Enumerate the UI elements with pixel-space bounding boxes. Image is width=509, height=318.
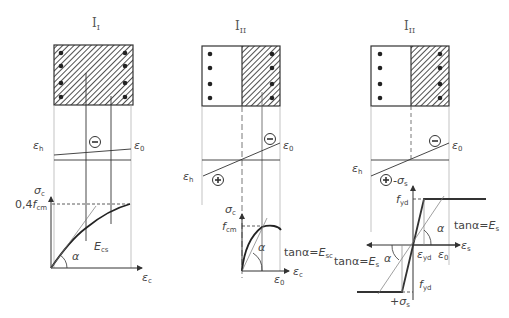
x-axis-label: εc [142,271,152,285]
panel-title: III [404,19,415,35]
angle-label: α [72,250,80,263]
y-axis-label: σc [225,203,236,217]
level-label: fcm [222,220,237,234]
panel-stage-1: II εh ε0 α Ecs σc 0,4fcm εc [15,16,152,285]
panel-stage-2-concrete: III ε0 εh α σc fcm [183,19,333,287]
y-axis-label: σc [34,184,45,198]
tension-sign-icon [213,175,224,186]
strain-label-h: εh [33,139,43,153]
tan-label-upper: tanα=Es [454,219,499,233]
compression-sign-icon [90,137,101,148]
x-mark-label: ε0 [274,273,284,287]
strain-0-label: ε0 [438,248,448,262]
level-label: 0,4fcm [15,198,47,212]
angle-label: α [258,241,266,254]
modulus-label: Ecs [94,240,109,254]
tension-stress-label: -σs [393,174,408,188]
strain-label-h: εh [183,170,193,184]
panel-title: II [92,16,100,32]
strain-label-0: ε0 [452,139,462,153]
cross-section-hatched [54,45,133,105]
compression-sign-icon [430,136,441,147]
strain-line [54,149,131,155]
yield-stress-top: fyd [396,193,408,207]
x-axis-label: εc [293,265,303,279]
yield-stress-bottom: fyd [419,278,431,292]
bottom-stress-label: +σs [390,295,410,309]
angle-label-lower: α [384,252,392,265]
compression-sign-icon [265,134,276,145]
structural-diagram: II εh ε0 α Ecs σc 0,4fcm εc [0,0,509,318]
strain-label-0: ε0 [134,139,144,153]
panel-title: III [235,19,246,35]
strain-line [203,143,280,176]
yield-strain-label: εyd [417,248,432,262]
tan-label: tanα=Esc [284,246,333,260]
strain-label-h: εh [352,162,362,176]
tension-sign-icon [381,175,392,186]
angle-label-upper: α [437,222,445,235]
tan-label-lower: tanα=Es [334,255,379,269]
strain-line [371,143,449,176]
panel-stage-2-steel: III ε0 εh -σs [334,19,499,309]
x-axis-label: εs [461,239,471,253]
strain-label-0: ε0 [283,139,293,153]
